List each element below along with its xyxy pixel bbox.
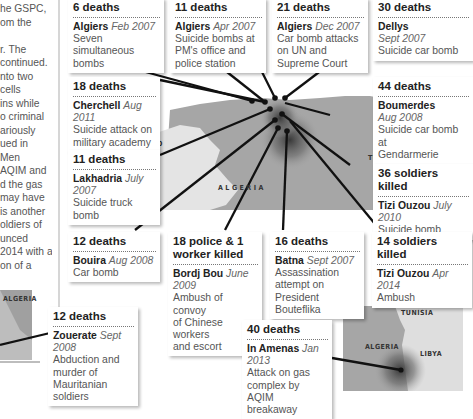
description: Seven simultaneous <box>73 33 160 57</box>
label-algeria: ALGERIA <box>218 184 266 192</box>
death-toll: 18 deaths <box>73 80 156 97</box>
death-toll: 16 deaths <box>275 235 360 252</box>
description: Gendarmerie <box>378 149 469 161</box>
date: Apr 2007 <box>213 21 255 32</box>
description: attempt on <box>275 279 360 291</box>
label-algeria-inset-right: ALGERIA <box>365 343 399 351</box>
description: PM's office and <box>175 45 262 57</box>
incident-card-dellys-sept-2007: 30 deaths Dellys Sept 2007 Suicide car b… <box>373 0 473 61</box>
death-toll: 11 deaths <box>73 153 156 170</box>
incident-card-in-amenas-jan-2013: 40 deaths In Amenas Jan 2013 Attack on g… <box>242 320 332 419</box>
incident-card-cherchell-aug-2011: 18 deaths Cherchell Aug 2011 Suicide att… <box>68 77 160 152</box>
date: Aug 2008 <box>109 255 154 266</box>
dot-in-amenas <box>398 367 403 372</box>
description: Suicide car bomb at <box>378 124 469 148</box>
description: bombs <box>73 58 160 70</box>
description: complex by AQIM <box>247 380 328 404</box>
label-libya-inset: LIBYA <box>420 350 442 358</box>
place: Tizi Ouzou <box>378 200 430 211</box>
incident-card-algiers-feb-2007: 6 deaths Algiers Feb 2007 Seven simultan… <box>68 0 164 73</box>
incident-card-boumerdes-aug-2008: 44 deaths Boumerdes Aug 2008 Suicide car… <box>373 77 473 164</box>
incident-card-zouerate-sept-2008: 12 deaths Zouerate Sept 2008 Abduction a… <box>48 307 138 406</box>
death-toll: 40 deaths <box>247 323 328 340</box>
description: Ambush <box>377 292 468 304</box>
death-toll: 21 deaths <box>277 1 364 18</box>
description: Mauritanian <box>53 379 134 391</box>
description: Abduction and <box>53 354 134 366</box>
death-toll: 6 deaths <box>73 1 160 18</box>
place: Algiers <box>73 21 108 32</box>
description: Ambush of convoy <box>173 292 258 316</box>
incident-card-tizi-ouzou-apr-2014: 14 soldiers killed Tizi Ouzou Apr 2014 A… <box>372 232 472 308</box>
place: Cherchell <box>73 100 120 111</box>
description: murder of <box>53 367 134 379</box>
description: Attack on gas <box>247 367 328 379</box>
description: breakaway <box>247 404 328 416</box>
death-toll: 44 deaths <box>378 80 469 97</box>
description: police station <box>175 58 262 70</box>
date: Sept 2007 <box>307 255 354 266</box>
death-toll: 18 police & 1 worker killed <box>173 235 258 265</box>
date: Aug 2008 <box>378 112 469 124</box>
place: Algiers <box>277 21 312 32</box>
incident-card-algiers-apr-2007: 11 deaths Algiers Apr 2007 Suicide bombs… <box>170 0 266 73</box>
incident-card-tizi-ouzou-july-2010: 36 soldiers killed Tizi Ouzou July 2010 … <box>373 164 473 240</box>
place: In Amenas <box>247 343 299 354</box>
description: Suicide attack on <box>73 124 156 136</box>
date: Sept 2007 <box>378 33 469 45</box>
label-algeria-inset-left: ALGERIA <box>3 295 37 303</box>
death-toll: 12 deaths <box>53 310 134 327</box>
death-toll: 36 soldiers killed <box>378 167 469 197</box>
death-toll: 30 deaths <box>378 1 469 18</box>
place: Dellys <box>378 21 469 33</box>
incident-card-lakhadria-july-2007: 11 deaths Lakhadria July 2007 Suicide tr… <box>68 150 160 225</box>
description: Car bomb <box>73 267 156 279</box>
description: Suicide car bomb <box>378 45 469 57</box>
description: soldiers <box>53 391 134 403</box>
description: Suicide truck bomb <box>73 197 156 221</box>
place: Zouerate <box>53 330 97 341</box>
place: Boumerdes <box>378 100 469 112</box>
place: Algiers <box>175 21 210 32</box>
description: Supreme Court <box>277 58 364 70</box>
description: Car bomb attacks <box>277 33 364 45</box>
description: President Bouteflika <box>275 292 360 316</box>
date: Feb 2007 <box>111 21 155 32</box>
place: Tizi Ouzou <box>377 268 429 279</box>
description: Suicide bombs at <box>175 33 262 45</box>
label-tunisia-inset: TUNISIA <box>401 309 433 317</box>
inset-border <box>0 361 40 363</box>
description: Assassination <box>275 267 360 279</box>
place: Batna <box>275 255 304 266</box>
incident-card-bouira-aug-2008: 12 deaths Bouira Aug 2008 Car bomb <box>68 232 160 282</box>
death-toll: 11 deaths <box>175 1 262 18</box>
death-toll: 12 deaths <box>73 235 156 252</box>
incident-card-batna-sept-2007: 16 deaths Batna Sept 2007 Assassination … <box>270 232 364 319</box>
date: Dec 2007 <box>315 21 359 32</box>
incident-card-algiers-dec-2007: 21 deaths Algiers Dec 2007 Car bomb atta… <box>272 0 368 73</box>
place: Bordj Bou <box>173 268 223 279</box>
description: military academy <box>73 137 156 149</box>
place: Lakhadria <box>73 173 122 184</box>
place: Bouira <box>73 255 106 266</box>
death-toll: 14 soldiers killed <box>377 235 468 265</box>
description: on UN and <box>277 45 364 57</box>
